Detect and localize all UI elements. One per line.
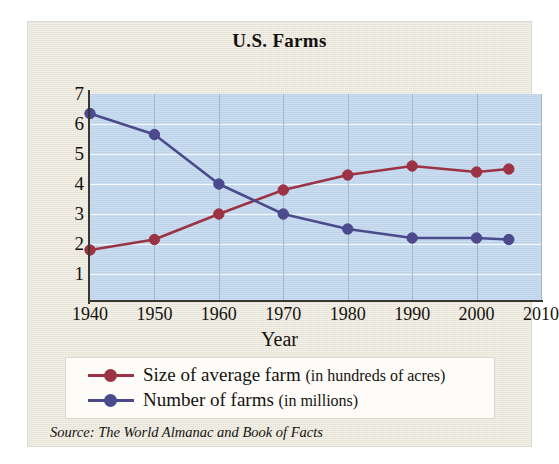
legend-label-paren-1: (in millions) [279,392,359,409]
data-point-s1-1960 [214,179,224,189]
x-axis-line [88,300,543,302]
y-tick-label-5: 5 [60,144,84,163]
x-tick-label-1980: 1980 [313,305,383,323]
x-tick-label-1970: 1970 [248,305,318,323]
data-point-s0-1990 [407,161,417,171]
data-point-s0-1950 [149,234,159,244]
legend-item-size-of-average-farm: Size of average farm (in hundreds of acr… [88,362,445,388]
y-tick-label-4: 4 [60,174,84,193]
data-point-s1-2000 [471,233,481,243]
legend-label-main-1: Number of farms [143,389,274,410]
data-point-s0-2005 [504,164,514,174]
chart-legend: Size of average farm (in hundreds of acr… [66,358,494,418]
y-axis-line [88,90,90,304]
source-citation: Source: The World Almanac and Book of Fa… [50,424,323,441]
x-tick-label-2010: 2010 [506,305,559,323]
x-tick-label-1950: 1950 [119,305,189,323]
legend-label-main-0: Size of average farm [143,364,301,385]
data-point-s1-1940 [85,108,95,118]
data-point-s1-1980 [343,224,353,234]
data-point-s1-1990 [407,233,417,243]
data-point-s0-1940 [85,245,95,255]
chart-figure: U.S. Farms 1234567 194019501960197019801… [0,0,559,464]
x-tick-label-1960: 1960 [184,305,254,323]
chart-card: U.S. Farms 1234567 194019501960197019801… [28,22,531,446]
legend-item-number-of-farms: Number of farms (in millions) [88,387,358,413]
y-tick-label-3: 3 [60,204,84,223]
legend-marker-icon-series-0 [88,367,134,383]
x-tick-label-2000: 2000 [442,305,512,323]
y-tick-label-7: 7 [60,84,84,103]
data-point-s1-2005 [504,234,514,244]
x-tick-label-1940: 1940 [55,305,125,323]
data-point-s1-1970 [278,209,288,219]
y-tick-label-6: 6 [60,114,84,133]
plot-area [90,94,541,300]
gridline-x-2010 [541,94,542,300]
data-point-s0-1960 [214,209,224,219]
y-tick-label-2: 2 [60,234,84,253]
x-tick-label-1990: 1990 [377,305,447,323]
legend-label-paren-0: (in hundreds of acres) [305,367,445,384]
y-tick-label-1: 1 [60,264,84,283]
data-point-s0-1980 [343,170,353,180]
legend-label-series-0: Size of average farm (in hundreds of acr… [143,364,445,386]
data-point-s1-1950 [149,129,159,139]
x-axis-title: Year [28,328,531,351]
data-point-s0-1970 [278,185,288,195]
series-layer [90,94,541,300]
data-point-s0-2000 [471,167,481,177]
chart-title: U.S. Farms [28,30,531,52]
legend-marker-icon-series-1 [88,392,134,408]
legend-label-series-1: Number of farms (in millions) [143,389,358,411]
